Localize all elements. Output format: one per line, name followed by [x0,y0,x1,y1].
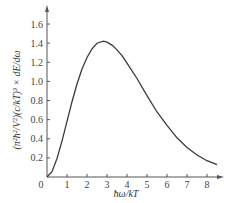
x-tick-label: 5 [145,179,150,190]
x-tick-label: 8 [205,179,210,190]
x-axis-arrow-icon [217,175,224,179]
y-tick-label: 1.6 [31,19,44,30]
y-tick-label: 1.4 [31,38,44,49]
x-tick-label: 3 [105,179,110,190]
x-tick-label: 7 [185,179,190,190]
y-tick-label: 0.6 [31,114,44,125]
x-tick-label: 0 [39,179,44,190]
data-line [47,41,217,177]
x-tick-label: 6 [165,179,170,190]
y-tick-label: 1.0 [31,76,44,87]
y-tick-label: 0.8 [31,95,44,106]
x-axis-title: ħω/kT [114,188,140,199]
y-tick-label: 0.2 [31,152,44,163]
x-tick-label: 1 [65,179,70,190]
y-tick-label: 1.2 [31,57,44,68]
y-tick-label: 0.4 [31,133,44,144]
x-tick-label: 2 [85,179,90,190]
y-axis: 0.20.40.60.81.01.21.41.6 [31,5,51,177]
y-axis-title: (π²ħ²/V²)(c/kT)³ × dE/dω [11,50,23,149]
planck-spectrum-chart: 0.20.40.60.81.01.21.41.6 012345678 ħω/kT… [0,0,228,203]
y-axis-arrow-icon [45,5,49,12]
